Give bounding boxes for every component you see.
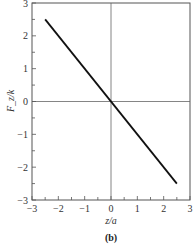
svg-text:−2: −2 [53, 203, 64, 214]
svg-text:1: 1 [135, 203, 140, 214]
y-axis-label: F_z/k [5, 89, 16, 113]
x-axis-label: z/a [104, 215, 117, 226]
svg-text:2: 2 [23, 30, 28, 41]
tick-labels: −3−2−10123−3−2−10123 [17, 0, 192, 214]
svg-text:−1: −1 [79, 203, 90, 214]
svg-text:2: 2 [161, 203, 166, 214]
panel-label: (b) [105, 232, 117, 244]
chart: −3−2−10123−3−2−10123 z/a (b) F_z/k [0, 0, 194, 246]
svg-text:1: 1 [23, 63, 28, 74]
svg-text:−3: −3 [17, 195, 28, 206]
svg-text:3: 3 [23, 0, 28, 9]
svg-text:−2: −2 [17, 162, 28, 173]
svg-text:−1: −1 [17, 129, 28, 140]
svg-text:0: 0 [23, 96, 28, 107]
svg-text:0: 0 [109, 203, 114, 214]
svg-text:3: 3 [188, 203, 193, 214]
svg-text:−3: −3 [27, 203, 38, 214]
